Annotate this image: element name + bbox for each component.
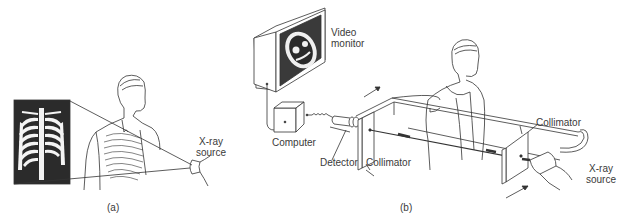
xray-source-label-b: X-ray source xyxy=(586,163,616,185)
xray-source-label-a: X-ray source xyxy=(196,136,226,158)
panel-a xyxy=(14,75,210,190)
detector xyxy=(330,116,359,160)
label-line: source xyxy=(586,174,616,185)
collimator-right-label: Collimator xyxy=(536,117,581,128)
motion-arrow-bottom xyxy=(506,186,528,198)
collimator-left-label: Collimator xyxy=(366,157,411,168)
label-line: monitor xyxy=(331,38,364,49)
computer-label: Computer xyxy=(272,137,316,148)
collimator-left-leader xyxy=(366,170,374,176)
detector-label: Detector xyxy=(320,157,358,168)
label-line: X-ray xyxy=(586,163,616,174)
chest-xray-film xyxy=(14,100,70,184)
video-monitor-label: Video monitor xyxy=(331,27,364,49)
diagram-canvas xyxy=(0,0,623,223)
xray-source-a xyxy=(190,156,210,186)
motion-arrow-top xyxy=(364,87,380,97)
panel-b xyxy=(254,8,588,198)
label-line: source xyxy=(196,147,226,158)
caption-b: (b) xyxy=(400,202,412,213)
xray-beam xyxy=(370,130,522,159)
xray-source-b xyxy=(522,152,572,190)
caption-a: (a) xyxy=(107,202,119,213)
computer-box xyxy=(274,102,308,132)
detector-cable xyxy=(307,114,334,119)
label-line: X-ray xyxy=(196,136,226,147)
video-monitor xyxy=(254,8,325,92)
patient-figure-a xyxy=(84,75,160,190)
label-line: Video xyxy=(331,27,364,38)
collimator-right-leader xyxy=(520,126,522,134)
